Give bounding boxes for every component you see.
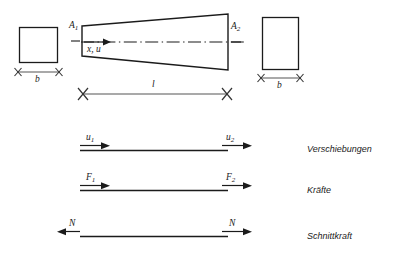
right-area-symbol: A [231, 21, 237, 31]
f2-symbol: F [226, 172, 232, 182]
f1-symbol: F [86, 172, 92, 182]
f2-subscript: 2 [232, 176, 236, 184]
length-label: l [152, 80, 155, 90]
right-area-label: A2 [231, 22, 240, 32]
right-area-subscript: 2 [237, 25, 241, 33]
u2-subscript: 2 [231, 136, 235, 144]
caption-displacements: Verschiebungen [307, 145, 372, 154]
u1-subscript: 1 [91, 136, 95, 144]
f2-label: F2 [226, 173, 235, 183]
figure-canvas [0, 0, 403, 257]
axis-coordinate-label: x, u [87, 45, 101, 55]
f1-subscript: 1 [92, 176, 96, 184]
n-left-arrow-head [57, 228, 66, 235]
n-right-label: N [229, 219, 235, 229]
caption-forces: Kräfte [307, 186, 331, 195]
left-width-label: b [35, 75, 40, 85]
left-area-subscript: 1 [75, 24, 79, 32]
f2-arrow-head [243, 182, 252, 189]
f1-label: F1 [86, 173, 95, 183]
truss-element-figure: A1 A2 b b x, u l u1 u2 F1 F2 N N Verschi… [0, 0, 403, 257]
n-right-arrow-head [243, 228, 252, 235]
left-area-label: A1 [69, 21, 78, 31]
axis-direction-arrow-head [103, 39, 111, 46]
right-cross-section-rect [263, 18, 299, 70]
f1-arrow-head [101, 182, 110, 189]
u1-label: u1 [86, 133, 94, 143]
u2-label: u2 [226, 133, 234, 143]
caption-internal-force: Schnittkraft [307, 232, 352, 241]
left-cross-section-rect [20, 28, 58, 63]
n-left-label: N [69, 219, 75, 229]
right-width-label: b [277, 81, 282, 91]
left-area-symbol: A [69, 20, 75, 30]
u2-arrow-head [243, 142, 252, 149]
u1-arrow-head [101, 142, 110, 149]
